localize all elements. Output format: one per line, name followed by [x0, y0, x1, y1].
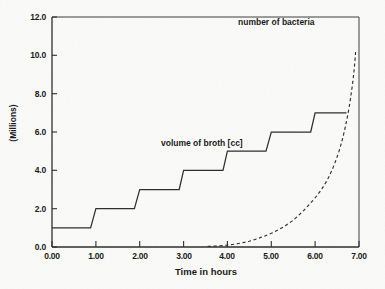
x-axis-title: Time in hours — [52, 266, 360, 277]
series-annotation-volume-of-broth: volume of broth [cc] — [161, 138, 243, 148]
x-tick-label: 0.00 — [38, 251, 66, 261]
x-tick-label: 5.00 — [257, 251, 285, 261]
y-axis-title: (Millions) — [8, 93, 18, 153]
plot-frame — [52, 17, 359, 247]
x-tick-label: 3.00 — [170, 251, 198, 261]
chart-figure: 12.0 10.0 8.0 6.0 4.0 2.0 0.0 0.00 1.00 … — [0, 0, 385, 289]
series-annotation-number-of-bacteria: number of bacteria — [238, 17, 315, 27]
x-axis-ticks — [52, 241, 359, 247]
series-volume-of-broth — [52, 113, 347, 228]
x-tick-label: 4.00 — [213, 251, 241, 261]
series-number-of-bacteria — [208, 52, 356, 247]
y-tick-label: 10.0 — [18, 50, 46, 60]
y-tick-label: 4.0 — [18, 165, 46, 175]
y-axis-ticks — [52, 17, 57, 247]
x-tick-label: 1.00 — [82, 251, 110, 261]
y-tick-label: 6.0 — [18, 127, 46, 137]
y-tick-label: 8.0 — [18, 89, 46, 99]
x-tick-label: 2.00 — [126, 251, 154, 261]
y-tick-label: 2.0 — [18, 204, 46, 214]
y-tick-label: 12.0 — [18, 12, 46, 22]
x-tick-label: 6.00 — [301, 251, 329, 261]
x-tick-label: 7.00 — [345, 251, 373, 261]
